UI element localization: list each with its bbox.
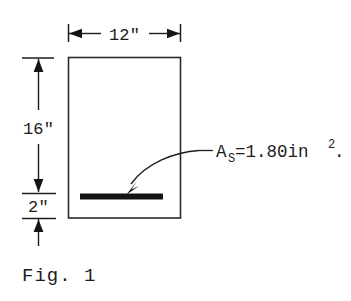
width-dimension-label: 12"	[109, 26, 140, 45]
cover-dim-arrow-up-icon	[34, 220, 44, 233]
annotation-trailing-period: .	[334, 142, 345, 162]
beam-cross-section-diagram: 12" 16" 2"	[0, 0, 351, 301]
rebar-area-annotation: A S =1.80in 2 .	[216, 138, 345, 166]
annotation-value: =1.80in	[235, 142, 309, 162]
width-dim-arrow-left-icon	[69, 29, 82, 39]
height-dimension-label: 16"	[23, 120, 54, 139]
height-dim-arrow-up-icon	[34, 59, 44, 72]
height-dim-arrow-down-icon	[34, 179, 44, 192]
figure-caption: Fig. 1	[22, 265, 96, 287]
height-dimension-group: 16"	[22, 58, 54, 192]
rebar-steel-bar	[80, 194, 163, 200]
figure-container: 12" 16" 2"	[0, 0, 351, 301]
width-dim-arrow-right-icon	[167, 29, 180, 39]
annotation-symbol: A	[216, 142, 227, 162]
cover-dimension-group: 2"	[22, 194, 56, 247]
width-dimension-group: 12"	[69, 24, 181, 45]
cover-dimension-label: 2"	[28, 198, 49, 217]
